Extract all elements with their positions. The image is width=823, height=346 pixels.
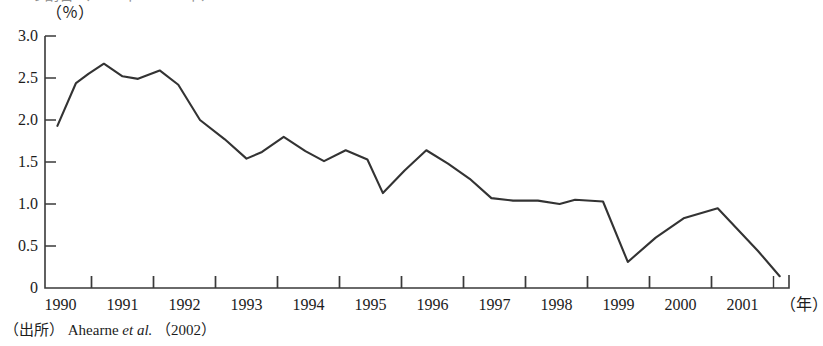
source-note: （出所） Ahearne et al. （2002） [4, 322, 216, 338]
x-axis-unit-label: （年） [780, 297, 823, 313]
y-tick-label: 1.0 [0, 196, 38, 212]
chart-figure: の割合（1990年〜2001年） （％） 00.51.01.52.02.53.0… [0, 0, 823, 346]
x-tick-label: 1994 [279, 297, 339, 313]
y-tick-label: 2.5 [0, 70, 38, 86]
source-prefix: （出所） [4, 322, 64, 338]
y-tick-label: 2.0 [0, 112, 38, 128]
y-tick-label: 3.0 [0, 28, 38, 44]
y-tick-label: 0.5 [0, 238, 38, 254]
y-tick-label: 1.5 [0, 154, 38, 170]
x-tick-label: 1999 [589, 297, 649, 313]
x-tick-label: 1990 [31, 297, 91, 313]
data-series-line [57, 64, 779, 277]
source-author: Ahearne [68, 322, 123, 338]
x-tick-label: 2001 [713, 297, 773, 313]
x-tick-label: 1992 [155, 297, 215, 313]
x-tick-label: 1997 [465, 297, 525, 313]
source-et-al: et al. [122, 322, 152, 338]
x-tick-label: 2000 [651, 297, 711, 313]
line-chart-plot [0, 0, 823, 346]
source-year: （2002） [156, 322, 216, 338]
y-tick-label: 0 [0, 280, 38, 296]
x-tick-label: 1991 [93, 297, 153, 313]
x-tick-label: 1998 [527, 297, 587, 313]
x-tick-label: 1995 [341, 297, 401, 313]
y-axis-tick-marks [45, 36, 56, 246]
x-axis-tick-marks [92, 276, 774, 288]
x-tick-label: 1993 [217, 297, 277, 313]
x-tick-label: 1996 [403, 297, 463, 313]
chart-axes [45, 36, 789, 288]
